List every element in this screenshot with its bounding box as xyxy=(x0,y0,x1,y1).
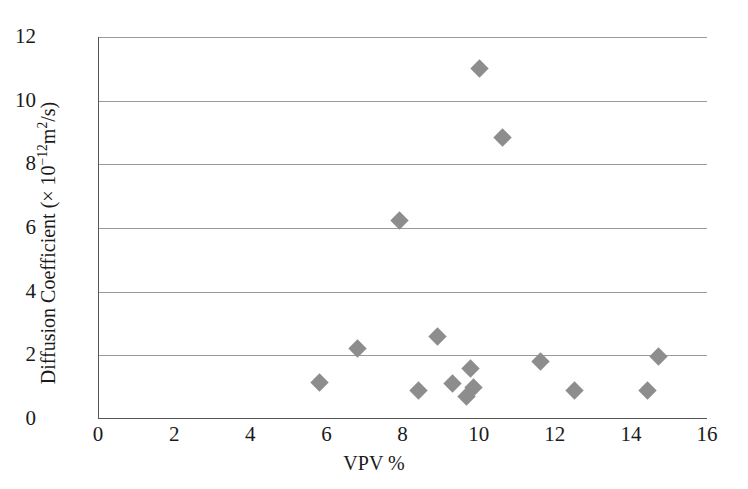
data-point-marker xyxy=(429,327,447,345)
y-axis-title-exponent-1: −12 xyxy=(35,144,50,165)
data-point-marker xyxy=(493,128,511,146)
data-point-marker xyxy=(390,211,408,229)
x-tick-label: 8 xyxy=(373,424,433,445)
x-tick-label: 2 xyxy=(144,424,204,445)
x-tick-label: 14 xyxy=(601,424,661,445)
y-axis-title-prefix: Diffusion Coefficient (× 10 xyxy=(37,165,59,384)
y-tick-label: 10 xyxy=(0,90,36,111)
data-point-marker xyxy=(470,60,488,78)
y-axis-title: Diffusion Coefficient (× 10−12m2/s) xyxy=(35,33,65,453)
y-axis-title-exponent-2: 2 xyxy=(35,122,50,129)
y-tick-label: 8 xyxy=(0,153,36,174)
gridline xyxy=(99,101,707,102)
y-tick-label: 4 xyxy=(0,281,36,302)
x-axis-title: VPV % xyxy=(0,452,748,475)
y-tick-label: 2 xyxy=(0,344,36,365)
x-tick-label: 16 xyxy=(677,424,737,445)
data-point-marker xyxy=(444,375,462,393)
x-tick-label: 12 xyxy=(525,424,585,445)
data-point-marker xyxy=(649,348,667,366)
y-tick-label: 12 xyxy=(0,26,36,47)
x-tick-label: 10 xyxy=(449,424,509,445)
gridline xyxy=(99,355,707,356)
data-point-marker xyxy=(311,373,329,391)
data-point-marker xyxy=(638,381,656,399)
plot-area xyxy=(98,37,707,419)
y-tick-label: 0 xyxy=(0,408,36,429)
y-tick-label: 6 xyxy=(0,217,36,238)
gridline xyxy=(99,37,707,38)
data-point-marker xyxy=(410,381,428,399)
x-tick-label: 4 xyxy=(220,424,280,445)
gridline xyxy=(99,228,707,229)
y-axis-title-mid: m xyxy=(37,129,59,145)
x-tick-label: 6 xyxy=(296,424,356,445)
data-point-marker xyxy=(461,359,479,377)
data-point-marker xyxy=(566,381,584,399)
gridline xyxy=(99,164,707,165)
gridline xyxy=(99,292,707,293)
x-tick-label: 0 xyxy=(68,424,128,445)
scatter-plot-figure: 024681012 0246810121416 VPV % Diffusion … xyxy=(0,0,748,489)
y-axis-title-suffix: /s) xyxy=(37,102,59,122)
